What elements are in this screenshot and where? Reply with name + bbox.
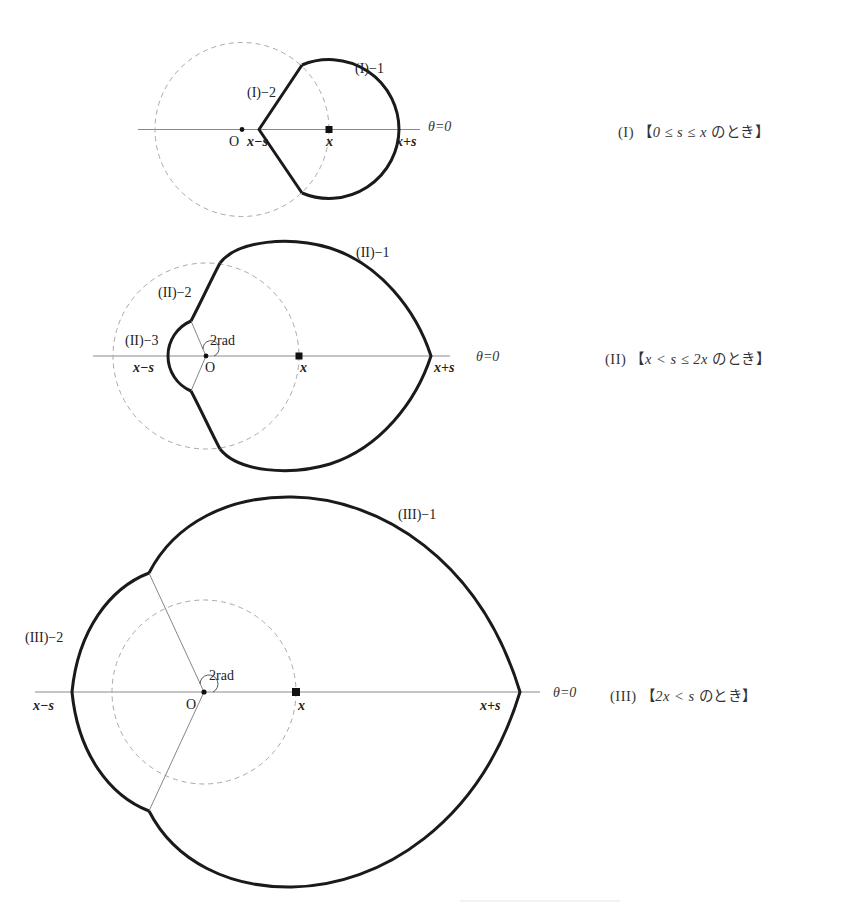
angle-ray-3-upper (149, 573, 204, 692)
caption-close-bracket: 】 (756, 351, 771, 367)
caption-condition: x < s ≤ 2x (645, 351, 708, 367)
label-II-2: (II)−2 (158, 285, 192, 301)
label-III-2: (III)−2 (25, 630, 63, 646)
x-minus-s-label-3: x−s (32, 698, 54, 713)
angle-label-2: 2rad (210, 333, 235, 348)
x-plus-s-label-3: x+s (479, 698, 501, 713)
origin-label-1: O (229, 134, 239, 149)
caption-numeral: (III) (610, 688, 637, 704)
figure-2: (II)−1 (II)−2 (II)−3 2rad O x−s x x+s θ=… (93, 241, 499, 470)
x-label-1: x (325, 134, 333, 149)
x-minus-s-label-2: x−s (132, 360, 154, 375)
origin-point-3 (201, 689, 206, 694)
caption-suffix: のとき (711, 124, 755, 140)
origin-point-2 (204, 354, 209, 359)
label-I-2: (I)−2 (247, 85, 276, 101)
origin-point-1 (240, 127, 245, 132)
x-plus-s-label-1: x+s (395, 134, 417, 149)
label-II-1: (II)−1 (356, 245, 390, 261)
caption-open-bracket: 【 (641, 688, 656, 704)
angle-ray-2-upper (191, 321, 206, 356)
curve-II-2-upper (191, 263, 220, 321)
scan-artifact (460, 900, 620, 902)
x-point-1 (326, 126, 333, 133)
label-I-1: (I)−1 (355, 61, 384, 77)
caption-case-3: (III) 【2x < s のとき】 (610, 684, 757, 705)
caption-numeral: (I) (618, 124, 634, 140)
caption-suffix: のとき (699, 688, 743, 704)
caption-case-1: (I) 【0 ≤ s ≤ x のとき】 (618, 120, 769, 141)
x-point-2 (296, 353, 303, 360)
caption-numeral: (II) (605, 351, 626, 367)
figure-3: (III)−1 (III)−2 2rad O x−s x x+s θ=0 (25, 497, 576, 887)
x-minus-s-label-1: x−s (246, 134, 268, 149)
angle-label-3: 2rad (209, 668, 234, 683)
caption-open-bracket: 【 (638, 124, 653, 140)
angle-ray-2-lower (191, 356, 206, 391)
curve-II-2-lower (191, 391, 220, 449)
x-plus-s-label-2: x+s (433, 360, 455, 375)
caption-condition: 2x < s (655, 688, 694, 704)
theta-zero-label-1: θ=0 (428, 119, 451, 134)
x-label-3: x (297, 698, 305, 713)
caption-close-bracket: 】 (742, 688, 757, 704)
caption-condition: 0 ≤ s ≤ x (653, 124, 707, 140)
origin-label-3: O (186, 697, 196, 712)
x-point-3 (292, 688, 300, 696)
caption-open-bracket: 【 (630, 351, 645, 367)
figure-1: (I)−1 (I)−2 O x−s x x+s θ=0 (138, 43, 451, 217)
theta-zero-label-2: θ=0 (476, 349, 499, 364)
x-label-2: x (299, 360, 307, 375)
caption-close-bracket: 】 (755, 124, 770, 140)
theta-zero-label-3: θ=0 (553, 685, 576, 700)
origin-label-2: O (205, 360, 215, 375)
caption-case-2: (II) 【x < s ≤ 2x のとき】 (605, 347, 770, 368)
caption-suffix: のとき (712, 351, 756, 367)
label-III-1: (III)−1 (398, 507, 436, 523)
label-II-3: (II)−3 (125, 333, 159, 349)
